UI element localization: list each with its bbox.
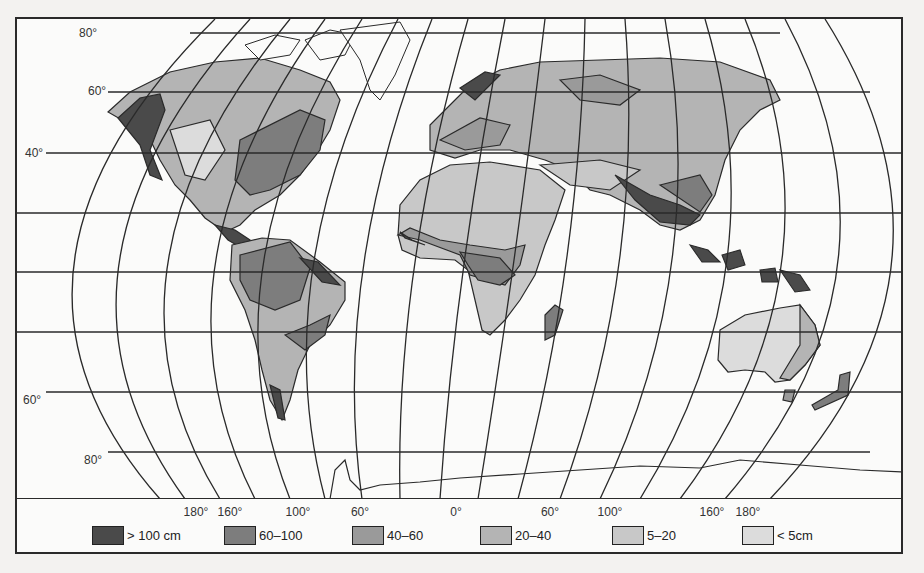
longitude-label: 160°: [218, 505, 243, 519]
legend-item-over-100cm: > 100 cm: [92, 526, 181, 545]
legend-swatch: [612, 526, 644, 545]
legend-swatch: [224, 526, 256, 545]
longitude-label: 160°: [700, 505, 725, 519]
legend-item-40-60: 40–60: [352, 526, 423, 545]
latitude-label-60s: 60°: [23, 393, 41, 407]
longitude-label: 60°: [541, 505, 559, 519]
africa: [398, 162, 565, 340]
legend-swatch: [480, 526, 512, 545]
longitude-label: 180°: [736, 505, 761, 519]
world-precipitation-map: [0, 0, 924, 573]
south-america: [230, 238, 345, 420]
legend-swatch: [742, 526, 774, 545]
map-legend: > 100 cm 60–100 40–60 20–40 5–20 < 5cm: [0, 526, 924, 548]
longitude-label: 100°: [598, 505, 623, 519]
latitude-label-40n: 40°: [25, 146, 43, 160]
latitude-label-60n: 60°: [88, 84, 106, 98]
legend-item-under-5cm: < 5cm: [742, 526, 813, 545]
legend-item-60-100: 60–100: [224, 526, 302, 545]
legend-swatch: [92, 526, 124, 545]
legend-label: < 5cm: [777, 528, 813, 543]
legend-label: 20–40: [515, 528, 551, 543]
legend-swatch: [352, 526, 384, 545]
legend-label: 60–100: [259, 528, 302, 543]
latitude-label-80s: 80°: [84, 453, 102, 467]
legend-item-5-20: 5–20: [612, 526, 676, 545]
longitude-label: 0°: [450, 505, 461, 519]
longitude-label: 60°: [351, 505, 369, 519]
legend-label: 5–20: [647, 528, 676, 543]
australia: [718, 305, 850, 410]
legend-item-20-40: 20–40: [480, 526, 551, 545]
legend-label: 40–60: [387, 528, 423, 543]
longitude-label: 100°: [286, 505, 311, 519]
legend-label: > 100 cm: [127, 528, 181, 543]
antarctica: [330, 460, 905, 499]
latitude-label-80n: 80°: [79, 26, 97, 40]
longitude-label: 180°: [184, 505, 209, 519]
southeast-asia-indonesia: [690, 245, 810, 292]
